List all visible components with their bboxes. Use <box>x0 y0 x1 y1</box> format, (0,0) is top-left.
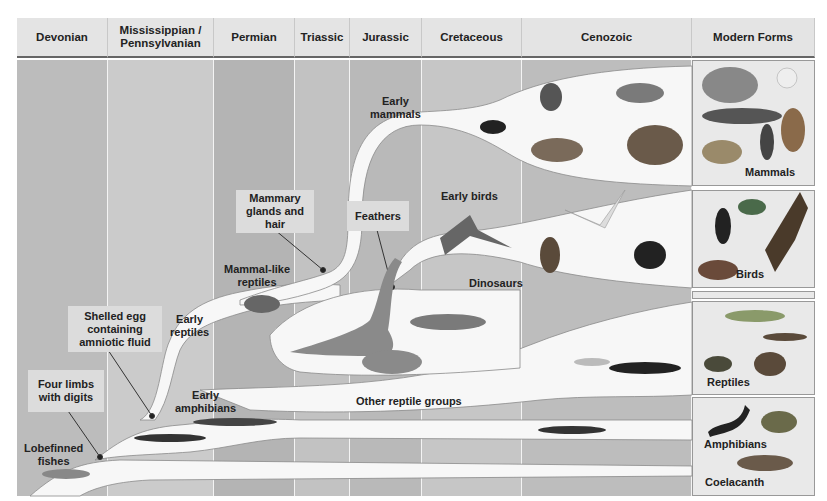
label-birds: Birds <box>736 268 764 281</box>
label-coelacanth: Coelacanth <box>705 476 764 489</box>
label-reptiles: Reptiles <box>707 376 750 389</box>
early-ungulate-icon <box>531 138 583 162</box>
runner-icon <box>760 124 774 160</box>
coyote-icon <box>702 140 742 164</box>
turtle-icon <box>704 356 732 372</box>
elephant-icon <box>702 67 758 103</box>
label-mammal-like-reptiles: Mammal-like reptiles <box>224 263 290 289</box>
triceratops-icon <box>362 350 422 374</box>
label-mammals: Mammals <box>745 166 795 179</box>
label-early-birds: Early birds <box>441 190 498 203</box>
label-early-amphibians: Early amphibians <box>175 389 236 415</box>
label-lobefinned-fishes: Lobefinned fishes <box>24 442 83 468</box>
eagle-icon <box>765 192 808 272</box>
pheasant-icon <box>698 260 738 280</box>
frog-icon <box>761 411 797 433</box>
fish-icon <box>42 469 90 479</box>
callout-feathers: Feathers <box>347 201 409 231</box>
mammoth-icon <box>627 125 683 165</box>
callout-shelled-egg: Shelled egg containing amniotic fluid <box>68 306 162 352</box>
rabbit-icon <box>777 68 797 88</box>
branch-birds <box>390 190 692 288</box>
branch-coelacanth <box>30 460 692 496</box>
rat-icon <box>480 120 506 134</box>
salamander-icon <box>538 426 606 434</box>
whale-icon <box>702 108 782 124</box>
label-early-mammals: Early mammals <box>370 95 421 121</box>
early-amphibian-icon <box>134 434 206 442</box>
coelacanth-icon <box>737 455 793 471</box>
theropod-icon <box>410 314 486 330</box>
owl-icon <box>540 237 560 273</box>
alligator-icon <box>725 310 785 322</box>
label-early-reptiles: Early reptiles <box>170 313 209 339</box>
phylogenetic-tree <box>0 0 827 501</box>
modern-lizard-icon <box>763 333 807 341</box>
lizard-icon <box>574 358 610 366</box>
callout-four-limbs: Four limbs with digits <box>28 370 104 412</box>
sabertooth-icon <box>616 83 664 103</box>
puffin-icon <box>634 241 666 269</box>
crocodile-icon <box>609 362 681 374</box>
penguin-icon <box>715 208 731 244</box>
label-other-reptile-groups: Other reptile groups <box>356 395 462 408</box>
callout-mammary-glands: Mammary glands and hair <box>236 190 314 233</box>
early-amphibian-2-icon <box>193 418 277 426</box>
mammal-like-reptile-icon <box>244 295 280 313</box>
parrot-icon <box>738 199 766 215</box>
snake-icon <box>754 352 786 376</box>
primate-icon <box>540 83 562 111</box>
modern-salamander-icon <box>708 405 750 437</box>
label-dinosaurs: Dinosaurs <box>469 277 523 290</box>
label-amphibians: Amphibians <box>704 438 767 451</box>
deer-icon <box>781 108 805 152</box>
